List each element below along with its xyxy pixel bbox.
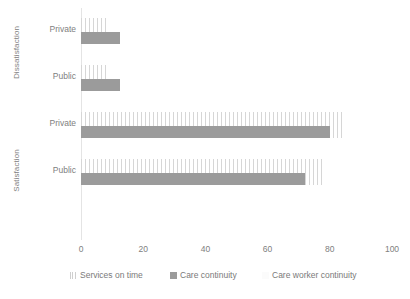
category-label-satisfaction-private: Private — [14, 118, 76, 128]
category-label-dissatisfaction-private: Private — [14, 24, 76, 34]
x-axis-tick-80: 80 — [315, 244, 345, 254]
bar-care-continuity — [81, 32, 120, 44]
category-label-satisfaction-public: Public — [14, 165, 76, 175]
solid-square-icon — [170, 272, 177, 279]
legend-label-care-worker-continuity: Care worker continuity — [272, 270, 357, 280]
category-label-dissatisfaction-public: Public — [14, 71, 76, 81]
bar-care-continuity — [81, 173, 305, 185]
x-axis-tick-20: 20 — [128, 244, 158, 254]
category-label-row-1: Private — [8, 24, 76, 36]
faint-square-icon — [262, 272, 269, 279]
bar-chart: Dissatisfaction Satisfaction Private Pub… — [0, 0, 410, 299]
legend-label-care-continuity: Care continuity — [180, 270, 237, 280]
bar-group-dissatisfaction-private — [81, 18, 392, 54]
category-label-row-4: Public — [8, 165, 76, 177]
chart-legend: Services on time Care continuity Care wo… — [0, 268, 410, 284]
x-axis-tick-60: 60 — [253, 244, 283, 254]
legend-item-care-continuity[interactable]: Care continuity — [170, 268, 237, 282]
striped-square-icon — [70, 272, 77, 279]
x-axis-tick-0: 0 — [66, 244, 96, 254]
bar-group-satisfaction-private — [81, 112, 392, 148]
legend-label-services-on-time: Services on time — [80, 270, 143, 280]
bar-care-continuity — [81, 126, 330, 138]
x-axis-tick-100: 100 — [377, 244, 407, 254]
legend-item-care-worker-continuity[interactable]: Care worker continuity — [262, 268, 357, 282]
plot-area — [81, 8, 392, 240]
bar-group-dissatisfaction-public — [81, 65, 392, 101]
category-label-row-2: Public — [8, 71, 76, 83]
bar-group-satisfaction-public — [81, 159, 392, 195]
category-label-row-3: Private — [8, 118, 76, 130]
bar-care-continuity — [81, 79, 120, 91]
legend-item-services-on-time[interactable]: Services on time — [70, 268, 143, 282]
x-axis-tick-40: 40 — [190, 244, 220, 254]
